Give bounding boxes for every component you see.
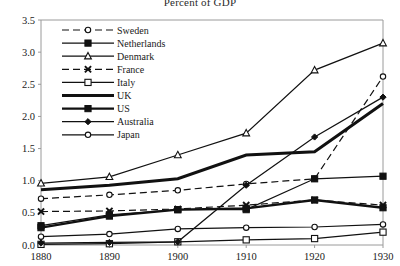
data-point	[38, 234, 43, 239]
data-point	[380, 205, 386, 211]
y-tick-label: 0.0	[22, 240, 35, 251]
legend-marker	[85, 119, 91, 125]
data-point	[107, 231, 112, 236]
data-point	[380, 74, 385, 79]
legend-item-italy[interactable]: Italy	[62, 77, 135, 88]
legend-item-australia[interactable]: Australia	[62, 116, 154, 127]
legend-item-france[interactable]: France	[62, 64, 145, 75]
x-tick-label: 1880	[31, 251, 52, 262]
legend-label: Denmark	[117, 51, 154, 62]
data-point	[380, 39, 387, 45]
data-point	[312, 224, 317, 229]
legend-label: UK	[117, 90, 132, 101]
line-chart-plot: 0.00.51.01.52.02.53.03.5 188018901900191…	[0, 0, 400, 266]
legend-item-denmark[interactable]: Denmark	[62, 51, 154, 62]
data-point	[380, 173, 386, 179]
data-point	[175, 207, 181, 213]
y-tick-label: 3.5	[22, 15, 35, 26]
series-france	[38, 197, 386, 215]
chart-legend: SwedenNetherlandsDenmarkFranceItalyUKUSA…	[62, 25, 165, 141]
data-point	[244, 225, 249, 230]
legend-item-japan[interactable]: Japan	[62, 129, 140, 140]
x-tick-label: 1890	[99, 251, 120, 262]
series-uk	[41, 104, 383, 190]
legend-marker	[85, 79, 91, 85]
legend-label: US	[117, 103, 130, 114]
y-axis-tick-labels: 0.00.51.01.52.02.53.03.5	[22, 15, 41, 251]
legend-marker	[85, 106, 91, 112]
y-tick-label: 1.0	[22, 175, 35, 186]
x-axis-tick-labels: 188018901900191019201930	[31, 245, 394, 262]
legend-label: Australia	[117, 116, 154, 127]
legend-marker	[85, 132, 90, 137]
legend-item-us[interactable]: US	[62, 103, 130, 114]
data-point	[312, 176, 318, 182]
legend-label: France	[117, 64, 145, 75]
series-denmark	[38, 39, 387, 186]
data-point	[380, 229, 386, 235]
data-point	[107, 192, 112, 197]
y-tick-label: 2.0	[22, 111, 35, 122]
data-point	[380, 94, 386, 100]
x-tick-label: 1930	[373, 251, 394, 262]
legend-label: Sweden	[117, 25, 149, 36]
data-point	[243, 205, 249, 211]
chart-figure: Percent of GDP 0.00.51.01.52.02.53.03.5 …	[0, 0, 400, 266]
legend-label: Japan	[117, 129, 140, 140]
y-tick-label: 3.0	[22, 47, 35, 58]
legend-item-uk[interactable]: UK	[62, 90, 132, 101]
legend-marker	[85, 27, 90, 32]
series-australia	[38, 94, 386, 246]
data-point	[312, 235, 318, 241]
data-point	[38, 225, 44, 231]
chart-title: Percent of GDP	[0, 0, 400, 8]
legend-label: Netherlands	[117, 38, 165, 49]
x-tick-label: 1900	[167, 251, 188, 262]
data-point	[380, 222, 385, 227]
legend-label: Italy	[117, 77, 135, 88]
y-tick-label: 1.5	[22, 143, 35, 154]
data-point	[175, 188, 180, 193]
data-point	[312, 197, 318, 203]
x-tick-label: 1920	[304, 251, 325, 262]
x-tick-label: 1910	[236, 251, 257, 262]
y-tick-label: 2.5	[22, 79, 35, 90]
data-point	[175, 226, 180, 231]
y-tick-label: 0.5	[22, 207, 35, 218]
legend-marker	[85, 40, 91, 46]
data-point	[106, 213, 112, 219]
chart-axes	[41, 20, 383, 245]
data-point	[243, 237, 249, 243]
legend-item-netherlands[interactable]: Netherlands	[62, 38, 165, 49]
data-point	[38, 196, 43, 201]
legend-item-sweden[interactable]: Sweden	[62, 25, 149, 36]
